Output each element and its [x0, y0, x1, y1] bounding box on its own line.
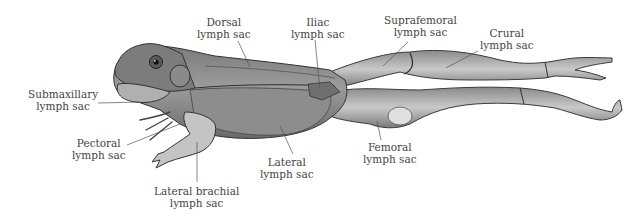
upper-hind-leg — [330, 50, 612, 88]
label-pectoral-lymph-sac: Pectoral lymph sac — [72, 137, 126, 161]
label-line: lymph sac — [363, 153, 417, 165]
label-line: Submaxillary — [28, 88, 98, 100]
label-line: Lateral brachial — [154, 185, 239, 197]
label-line: Pectoral — [72, 137, 126, 149]
label-line: lymph sac — [480, 39, 534, 51]
label-lateral-lymph-sac: Lateral lymph sac — [260, 156, 314, 180]
label-iliac-lymph-sac: Iliac lymph sac — [291, 16, 345, 40]
label-line: Crural — [480, 27, 534, 39]
label-suprafemoral-lymph-sac: Suprafemoral lymph sac — [384, 14, 457, 38]
label-line: lymph sac — [72, 149, 126, 161]
label-line: lymph sac — [384, 26, 457, 38]
label-crural-lymph-sac: Crural lymph sac — [480, 27, 534, 51]
label-submaxillary-lymph-sac: Submaxillary lymph sac — [28, 88, 98, 112]
label-line: Lateral — [260, 156, 314, 168]
label-line: lymph sac — [260, 168, 314, 180]
label-line: Iliac — [291, 16, 345, 28]
lower-hind-leg — [330, 87, 622, 128]
label-line: lymph sac — [28, 100, 98, 112]
label-dorsal-lymph-sac: Dorsal lymph sac — [197, 16, 251, 40]
tympanum — [170, 65, 190, 87]
label-lateral-brachial-lymph-sac: Lateral brachial lymph sac — [154, 185, 239, 209]
label-line: Suprafemoral — [384, 14, 457, 26]
label-line: lymph sac — [154, 197, 239, 209]
label-line: Femoral — [363, 141, 417, 153]
label-line: Dorsal — [197, 16, 251, 28]
label-line: lymph sac — [197, 28, 251, 40]
label-line: lymph sac — [291, 28, 345, 40]
label-femoral-lymph-sac: Femoral lymph sac — [363, 141, 417, 165]
